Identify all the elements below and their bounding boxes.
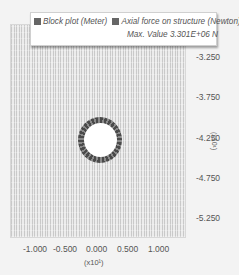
x-tick: 1.000	[148, 244, 169, 254]
y-tick: -5.250	[196, 213, 220, 223]
x-axis-exponent: (x10¹)	[84, 258, 104, 267]
x-tick: 0.500	[117, 244, 138, 254]
y-axis-exponent: (x10¹)	[211, 132, 218, 150]
y-tick: -3.250	[196, 52, 220, 62]
y-tick: -4.750	[196, 173, 220, 183]
x-tick: 0.000	[86, 244, 107, 254]
block-plot-swatch-icon	[34, 18, 41, 25]
x-tick: -0.500	[53, 244, 77, 254]
legend: Block plot (Meter) Axial force on struct…	[30, 12, 217, 46]
x-tick: -1.000	[23, 244, 47, 254]
legend-max-value: Max. Value 3.301E+06 N	[127, 30, 218, 39]
y-tick: -3.750	[196, 92, 220, 102]
tunnel-opening	[84, 123, 117, 157]
plot-window: Block plot (Meter) Axial force on struct…	[0, 0, 239, 275]
legend-row-1: Block plot (Meter) Axial force on struct…	[34, 17, 239, 26]
legend-block-plot-label: Block plot (Meter)	[43, 17, 107, 26]
legend-axial-force-label: Axial force on structure (Newton)	[121, 17, 239, 26]
axial-force-swatch-icon	[112, 18, 119, 25]
